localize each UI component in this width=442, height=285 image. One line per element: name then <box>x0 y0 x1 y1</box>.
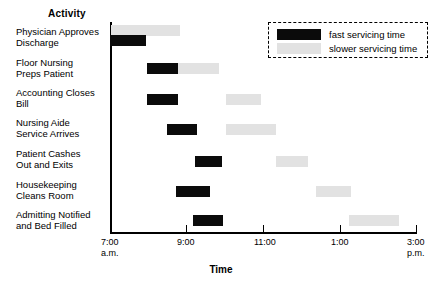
bar-fast-servicing-time <box>110 35 146 46</box>
x-tick-label: 11:00 <box>254 237 276 247</box>
activity-label: Nursing Aide Service Arrives <box>16 118 108 139</box>
bar-slower-servicing-time <box>178 63 219 74</box>
activity-label: Admitting Notified and Bed Filled <box>16 210 108 231</box>
x-tick-sublabel: a.m. <box>101 248 119 258</box>
bar-fast-servicing-time <box>176 186 210 197</box>
gantt-chart: Activity 7:00a.m.9:0011:001:003:00p.m. T… <box>0 0 442 285</box>
activity-label: Accounting Closes Bill <box>16 88 108 109</box>
x-tick-label: 7:00 <box>101 237 119 247</box>
x-tick-mark <box>340 225 341 233</box>
activity-label: Patient Cashes Out and Exits <box>16 149 108 170</box>
bar-slower-servicing-time <box>276 156 308 167</box>
legend-item-slow: slower servicing time <box>277 43 421 54</box>
x-tick-label: 3:00 <box>407 237 425 247</box>
bar-slower-servicing-time <box>349 215 399 226</box>
x-tick-label: 1:00 <box>331 237 349 247</box>
x-axis-title: Time <box>0 264 442 275</box>
x-tick-mark <box>110 225 111 233</box>
activity-label: Physician Approves Discharge <box>16 27 108 48</box>
activity-column-header: Activity <box>48 8 86 19</box>
legend: fast servicing time slower servicing tim… <box>268 22 428 58</box>
bar-fast-servicing-time <box>195 156 222 167</box>
legend-swatch-slow-icon <box>277 43 321 54</box>
activity-label: Floor Nursing Preps Patient <box>16 58 108 79</box>
bar-fast-servicing-time <box>193 215 223 226</box>
bar-slower-servicing-time <box>316 186 351 197</box>
activity-label: Housekeeping Cleans Room <box>16 180 108 201</box>
x-tick-mark <box>186 225 187 233</box>
legend-swatch-fast-icon <box>277 29 321 40</box>
bar-fast-servicing-time <box>147 63 178 74</box>
bar-fast-servicing-time <box>147 94 178 105</box>
legend-label-slow: slower servicing time <box>329 43 417 54</box>
y-axis-line <box>110 22 112 233</box>
x-tick-label: 9:00 <box>177 237 195 247</box>
x-tick-sublabel: p.m. <box>407 248 425 258</box>
legend-label-fast: fast servicing time <box>329 29 405 40</box>
bar-slower-servicing-time <box>226 94 261 105</box>
bar-fast-servicing-time <box>167 124 197 135</box>
legend-item-fast: fast servicing time <box>277 29 421 40</box>
x-tick-mark <box>263 225 264 233</box>
x-tick-mark <box>416 225 417 233</box>
bar-slower-servicing-time <box>226 124 276 135</box>
